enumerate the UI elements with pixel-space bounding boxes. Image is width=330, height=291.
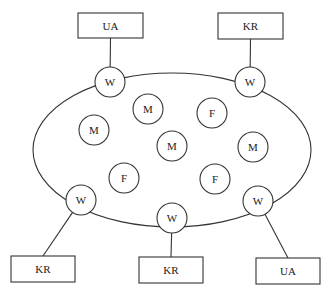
m-3: M	[157, 131, 187, 161]
w-bottom-left: W	[66, 185, 96, 215]
node-label: M	[167, 140, 177, 152]
m-4: M	[238, 132, 268, 162]
inner-nodes-layer: MFMMMFF	[79, 94, 268, 194]
connector-line	[171, 233, 172, 257]
box-label: UA	[103, 20, 119, 32]
node-label: W	[76, 194, 87, 206]
f-1: F	[197, 98, 227, 128]
node-label: M	[89, 124, 99, 136]
node-label: F	[209, 107, 215, 119]
node-label: W	[105, 76, 116, 88]
node-label: W	[167, 212, 178, 224]
node-label: W	[253, 195, 264, 207]
box-label: KR	[35, 263, 51, 275]
box-top-right: KR	[218, 13, 283, 39]
node-label: M	[143, 103, 153, 115]
f-2: F	[109, 163, 139, 193]
w-bottom-right: W	[243, 186, 273, 216]
connector-line	[43, 212, 73, 256]
m-2: M	[79, 115, 109, 145]
node-label: W	[245, 76, 256, 88]
box-bottom-left: KR	[11, 256, 75, 282]
box-label: KR	[163, 264, 179, 276]
f-3: F	[200, 164, 230, 194]
box-label: KR	[243, 20, 259, 32]
node-label: M	[248, 141, 258, 153]
w-bottom-middle: W	[157, 203, 187, 233]
w-top-left: W	[95, 67, 125, 97]
w-top-right: W	[235, 67, 265, 97]
box-bottom-middle: KR	[139, 257, 203, 283]
node-label: F	[212, 173, 218, 185]
box-label: UA	[280, 265, 296, 277]
box-bottom-right: UA	[256, 258, 320, 284]
box-top-left: UA	[78, 13, 143, 38]
network-diagram: UAKRKRKRUA WWWWW MFMMMFF	[0, 0, 330, 291]
connector-line	[265, 214, 288, 258]
node-label: F	[121, 172, 127, 184]
m-1: M	[133, 94, 163, 124]
